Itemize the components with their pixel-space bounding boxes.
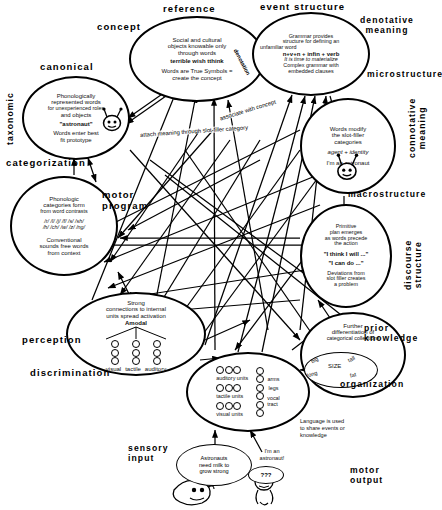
section-label-event-structure: event structure <box>260 2 345 13</box>
language-share-note: Language is used to share events or know… <box>300 418 390 439</box>
section-label-perception: perception <box>22 335 82 346</box>
section-label-macrostructure: macrostructure <box>348 190 426 200</box>
unit-circle <box>153 357 161 365</box>
section-label-microstructure: microstructure <box>367 70 442 80</box>
edge-label-associate-with-concept: associate with concept <box>218 98 277 121</box>
section-label-canonical: canonical <box>40 62 94 73</box>
section-label-categorization: categorization <box>6 158 86 169</box>
discrimination-label-legs: legs <box>267 386 280 392</box>
size-category-center-label: SIZE <box>328 363 341 371</box>
discrimination-node[interactable]: auditory units tactile units visual unit… <box>186 352 310 432</box>
tactile-units-row <box>216 384 241 392</box>
discrimination-label-vocal-tract: vocal tract <box>267 396 280 407</box>
unit-circle <box>256 375 264 383</box>
motor-units-column <box>256 367 264 418</box>
unit-circle <box>132 340 140 348</box>
auditory-unit-column <box>153 340 161 365</box>
section-label-denotative-meaning: denotative meaning <box>360 16 414 35</box>
macrostructure-line-9: a problem <box>334 282 358 288</box>
unit-circle <box>256 367 264 375</box>
unit-circle <box>256 392 264 400</box>
unit-circle <box>225 402 233 410</box>
section-label-reference: reference <box>163 4 216 15</box>
section-label-discourse-structure: discourse structure <box>404 240 423 291</box>
discrimination-label-auditory-units: auditory units <box>216 376 248 382</box>
discrimination-label-arms: arms <box>267 377 280 383</box>
unit-circle <box>225 384 233 392</box>
unit-circle <box>233 402 241 410</box>
macrostructure-quote-1: "I think I will ..." <box>324 251 369 257</box>
unit-circle <box>233 384 241 392</box>
microstructure-line-3: categories <box>334 139 362 145</box>
visual-units-row <box>216 402 241 410</box>
diagram-canvas: reference concept event structure denota… <box>0 0 442 510</box>
section-label-sensory-input: sensory input <box>128 444 169 463</box>
canonical-astronaut-word: "astronaut" <box>59 121 92 127</box>
unit-circle <box>132 357 140 365</box>
discrimination-label-tactile-units: tactile units <box>216 394 243 400</box>
section-label-taxonomic: taxonomic <box>6 92 16 145</box>
macrostructure-node[interactable]: Primitive plan emerges as words precede … <box>300 204 392 308</box>
robot-face-icon <box>98 106 128 136</box>
amodal-connector-lines <box>88 326 184 340</box>
section-label-discrimination: discrimination <box>30 368 110 379</box>
unit-circle <box>256 384 264 392</box>
perception-modality-auditory: auditory <box>145 366 166 372</box>
visual-unit-column <box>111 340 119 365</box>
unit-circle <box>216 366 224 374</box>
canonical-line-7: fit prototype <box>60 137 91 143</box>
section-label-organization: organization <box>340 380 404 390</box>
robot-face-icon-microstructure <box>332 152 364 184</box>
unit-circle <box>153 340 161 348</box>
amodal-unit-columns <box>111 340 161 365</box>
tactile-unit-column <box>132 340 140 365</box>
unit-circle <box>111 357 119 365</box>
section-label-prior-knowledge: prior knowledge <box>364 324 418 343</box>
section-label-motor-output: motor output <box>350 466 383 485</box>
reference-line-6: create the concept <box>172 75 221 81</box>
categorization-phonemes-row-2: /h/ /ch/ /w/ /z/ /ng/ <box>43 225 85 231</box>
discrimination-label-visual-units: visual units <box>216 412 243 418</box>
reference-line-3: through words <box>178 50 216 56</box>
motor-unit-groups: arms legs vocal tract <box>256 367 280 418</box>
question-bubble: ??? <box>248 466 284 484</box>
sensory-unit-groups: auditory units tactile units visual unit… <box>216 366 248 417</box>
unit-circle <box>233 366 241 374</box>
event-structure-line-7: embedded clauses <box>288 69 333 75</box>
section-label-motor-program: motor program <box>102 190 148 211</box>
unit-circle <box>256 409 264 417</box>
macrostructure-quote-2: "I can do ..." <box>328 260 363 266</box>
perception-line-3: units spread activation <box>106 313 166 319</box>
im-an-astronaut-label: I'm an astronaut! <box>248 448 296 462</box>
unit-circle <box>225 366 233 374</box>
macrostructure-line-4: the action <box>334 241 357 247</box>
section-label-connotative-meaning: connotative meaning <box>408 98 427 158</box>
unit-circle <box>132 349 140 357</box>
canonical-line-4: and objects <box>61 112 92 118</box>
perception-node[interactable]: Strong connections to internal units spr… <box>66 292 206 376</box>
categorization-line-8: from context <box>47 250 80 256</box>
event-structure-node[interactable]: Grammar provides structure for defining … <box>252 12 370 96</box>
reference-node[interactable]: Social and cultural objects knowable onl… <box>129 16 265 102</box>
unit-circle <box>216 402 224 410</box>
reference-example-words: terrible wish tthink <box>170 58 223 64</box>
edge-label-attach-meaning: attach meaning through slot-filler categ… <box>139 124 249 138</box>
astronaut-milk-bubble: Astronauts need milk to grow strong <box>176 444 252 486</box>
unit-circle <box>153 349 161 357</box>
unit-circle <box>256 401 264 409</box>
unit-circle <box>111 340 119 348</box>
auditory-units-row <box>216 366 241 374</box>
perception-modality-tactile: tactile <box>125 366 141 372</box>
categorization-line-3: from word contrasts <box>40 209 87 215</box>
section-label-concept: concept <box>97 22 141 33</box>
unit-circle <box>216 384 224 392</box>
unit-circle <box>111 349 119 357</box>
